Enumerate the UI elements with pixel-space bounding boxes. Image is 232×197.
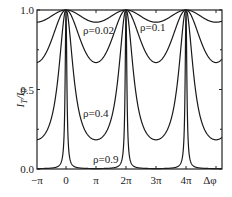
y-axis-title: IT/I0 — [14, 89, 29, 109]
curve-label: ρ=0.1 — [140, 21, 165, 33]
x-tick-label: 0 — [63, 174, 69, 186]
x-tick-label: 3π — [150, 174, 162, 186]
x-tick-label: 4π — [180, 174, 192, 186]
y-tick-label: 0.0 — [20, 163, 34, 175]
curve-label: ρ=0.4 — [83, 107, 109, 119]
x-tick-label: −π — [31, 174, 43, 186]
curve-label: ρ=0.02 — [83, 24, 114, 36]
x-tick-label: Δφ — [203, 174, 216, 186]
x-tick-label: 2π — [120, 174, 132, 186]
y-tick-label: 1.0 — [20, 4, 34, 16]
curves — [37, 10, 222, 169]
x-tick-label: π — [93, 174, 99, 186]
curve-label: ρ=0.9 — [93, 153, 119, 165]
transmission-chart: −π0π2π3π4πΔφ0.00.51.0 ρ=0.02ρ=0.1ρ=0.4ρ=… — [0, 0, 232, 197]
